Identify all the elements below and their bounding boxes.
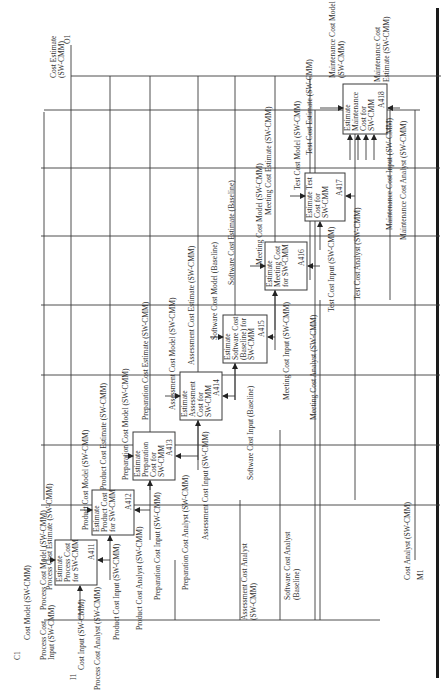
label-maintenance-cost-analyst: Maintenance Cost Analyst (SW-CMM)	[399, 120, 408, 240]
label-software-cost-analyst-l2: (Baseline)	[292, 568, 301, 600]
activity-a412-id: A412	[124, 493, 133, 510]
label-software-cost-model: Software Cost Model (Baseline)	[210, 241, 219, 340]
label-test-cost-model: Test Cost Model (SW-CMM)	[293, 100, 302, 190]
label-software-cost-estimate: Software Cost Estimate (Baseline)	[227, 180, 236, 285]
label-meeting-cost-model: Meeting Cost Model (SW-CMM)	[255, 163, 264, 265]
activity-a411[interactable]: Estimate Process Cost for SW-CMM A411	[55, 539, 97, 585]
activity-a416-line3: for SW-CMM	[281, 244, 290, 287]
activity-a414-id: A414	[212, 379, 221, 396]
label-test-cost-estimate: Test Cost Estimate (SW-CMM)	[305, 59, 314, 155]
label-maintenance-cost-estimate-l1: Maintenance Cost	[373, 26, 382, 82]
label-assessment-cost-analyst-l2: (SW-CMM)	[249, 582, 258, 620]
label-product-cost-estimate: Product Cost Estimate (SW-CMM)	[99, 383, 108, 490]
label-cost-estimate-l2: (SW-CMM)	[57, 40, 66, 78]
activity-a412[interactable]: Estimate Product Cost for SW-CMM A412	[92, 489, 134, 535]
activity-a417-id: A417	[335, 179, 344, 196]
label-software-cost-input: Software Cost Input (Baseline)	[246, 385, 255, 480]
label-meeting-cost-analyst: Meeting Cost Analyst (SW-CMM)	[309, 314, 318, 420]
label-product-cost-model: Product Cost Model (SW-CMM)	[81, 429, 90, 530]
label-product-cost-input: Product Cost Input (SW-CMM)	[112, 543, 121, 640]
label-process-cost-analyst: Process Cost Analyst (SW-CMM)	[93, 586, 102, 690]
label-assessment-cost-estimate: Assessment Cost Estimate (SW-CMM)	[187, 245, 196, 365]
label-product-cost-analyst: Product Cost Analyst (SW-CMM)	[135, 526, 144, 630]
activity-a415[interactable]: Estimate Software Cost (Baseline) for SW…	[223, 315, 267, 363]
label-preparation-cost-analyst: Preparation Cost Analyst (SW-CMM)	[181, 475, 190, 590]
label-cost-model: Cost Model (SW-CMM)	[23, 565, 32, 640]
activity-a412-line3: for SW-CMM	[108, 489, 117, 532]
activity-a417[interactable]: Estimate Test Cost for SW-CMM A417	[305, 173, 345, 221]
label-assessment-cost-model: Assessment Cost Model (SW-CMM)	[168, 297, 177, 410]
activity-a417-line3: SW-CMM	[321, 186, 330, 218]
activity-a418[interactable]: Estimate Maintenance Cost for SW-CMM A41…	[343, 84, 387, 134]
label-cost-input: Cost Input (SW-CMM)	[77, 599, 86, 670]
label-c1: C1	[13, 651, 22, 660]
label-software-cost-analyst-l1: Software Cost Analyst	[283, 531, 292, 600]
label-assessment-cost-input: Assessment Cost Input (SW-CMM)	[201, 431, 210, 540]
activity-a415-line4: SW-CMM	[247, 328, 256, 360]
activity-a411-line3: for SW-CMM	[71, 539, 80, 582]
label-preparation-cost-model: Preparation Cost Model (SW-CMM)	[121, 368, 130, 480]
label-meeting-cost-estimate: Meeting Cost Estimate (SW-CMM)	[264, 106, 273, 215]
label-assessment-cost-analyst-l1: Assessment Cost Analyst	[240, 542, 249, 620]
idef0-diagram: Estimate Process Cost for SW-CMM A411 Es…	[0, 0, 441, 695]
activity-a416-id: A416	[297, 249, 306, 266]
activity-a416[interactable]: Estimate Meeting Cost for SW-CMM A416	[265, 242, 307, 290]
label-preparation-cost-estimate: Preparation Cost Estimate (SW-CMM)	[141, 301, 150, 420]
activity-a415-id: A415	[257, 320, 266, 337]
activity-a418-line4: SW-CMM	[367, 99, 376, 131]
label-maintenance-cost-input: Maintenance Cost Input (SW-CMM)	[385, 118, 394, 230]
label-o1: O1	[63, 35, 72, 44]
label-cost-analyst: Cost Analyst (SW-CMM)	[403, 501, 412, 580]
label-test-cost-input: Test Cost Input (SW-CMM)	[327, 226, 336, 312]
label-i1: I1	[69, 673, 78, 680]
label-maintenance-cost-model-l1: Maintenance Cost Model	[328, 1, 337, 78]
label-process-cost-input-l2: Input (SW-CMM)	[47, 604, 56, 660]
label-m1: M1	[416, 569, 425, 580]
activity-a413[interactable]: Estimate Preparation Cost for SW-CMM A41…	[133, 432, 175, 480]
label-test-cost-analyst: Test Cost Analyst (SW-CMM)	[353, 207, 362, 300]
activity-a418-id: A418	[377, 91, 386, 108]
label-process-cost-estimate: Process Cost Estimate (SW-CMM)	[45, 483, 54, 590]
label-meeting-cost-input: Meeting Cost Input (SW-CMM)	[282, 301, 291, 400]
activity-a414[interactable]: Estimate Assessment Cost for SW-CMM A414	[180, 372, 222, 420]
label-preparation-cost-input: Preparation Cost Input (SW-CMM)	[153, 492, 162, 600]
activity-a411-id: A411	[87, 543, 96, 560]
label-maintenance-cost-estimate-l2: Estimate (SW-CMM)	[382, 16, 391, 82]
label-maintenance-cost-model-l2: (SW-CMM)	[337, 40, 346, 78]
activity-a413-id: A413	[165, 439, 174, 456]
